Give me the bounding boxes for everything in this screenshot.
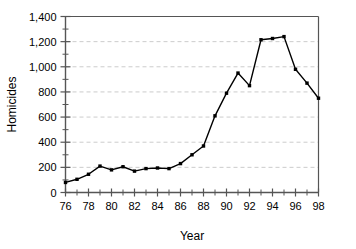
data-point-marker (156, 166, 159, 169)
x-tick-label: 82 (128, 200, 140, 212)
y-axis-title: Homicides (5, 76, 19, 132)
y-tick-label: 1,400 (29, 11, 57, 23)
x-tick-label: 94 (266, 200, 278, 212)
data-point-marker (202, 144, 205, 147)
x-tick-label: 84 (151, 200, 163, 212)
y-tick-label: 400 (38, 136, 56, 148)
x-axis-title: Year (180, 229, 204, 243)
data-point-marker (236, 71, 239, 74)
data-series-line (66, 37, 319, 183)
data-point-marker (259, 38, 262, 41)
y-tick-label: 600 (38, 111, 56, 123)
data-point-marker (64, 181, 67, 184)
x-tick-label: 86 (174, 200, 186, 212)
data-point-marker (317, 97, 320, 100)
data-point-marker (110, 168, 113, 171)
data-point-marker (179, 162, 182, 165)
data-point-marker (248, 84, 251, 87)
data-point-marker (121, 165, 124, 168)
data-point-marker (213, 114, 216, 117)
data-point-marker (225, 91, 228, 94)
y-tick-label: 1,200 (29, 36, 57, 48)
chart-canvas: 02004006008001,0001,2001,400767880828486… (0, 0, 356, 249)
data-point-marker (271, 37, 274, 40)
data-point-marker (75, 178, 78, 181)
data-point-marker (98, 164, 101, 167)
y-tick-label: 0 (50, 187, 56, 199)
x-tick-label: 90 (220, 200, 232, 212)
data-point-marker (144, 167, 147, 170)
y-tick-label: 800 (38, 86, 56, 98)
x-tick-label: 96 (289, 200, 301, 212)
x-tick-label: 92 (243, 200, 255, 212)
x-tick-label: 78 (82, 200, 94, 212)
homicides-line-chart: 02004006008001,0001,2001,400767880828486… (0, 0, 356, 249)
data-point-marker (167, 167, 170, 170)
data-point-marker (133, 169, 136, 172)
x-tick-label: 80 (105, 200, 117, 212)
data-point-marker (87, 173, 90, 176)
x-tick-label: 98 (312, 200, 324, 212)
data-point-marker (190, 153, 193, 156)
data-point-marker (294, 68, 297, 71)
y-tick-label: 200 (38, 161, 56, 173)
data-point-marker (305, 81, 308, 84)
x-tick-label: 88 (197, 200, 209, 212)
x-tick-label: 76 (59, 200, 71, 212)
y-tick-label: 1,000 (29, 61, 57, 73)
data-point-marker (282, 35, 285, 38)
